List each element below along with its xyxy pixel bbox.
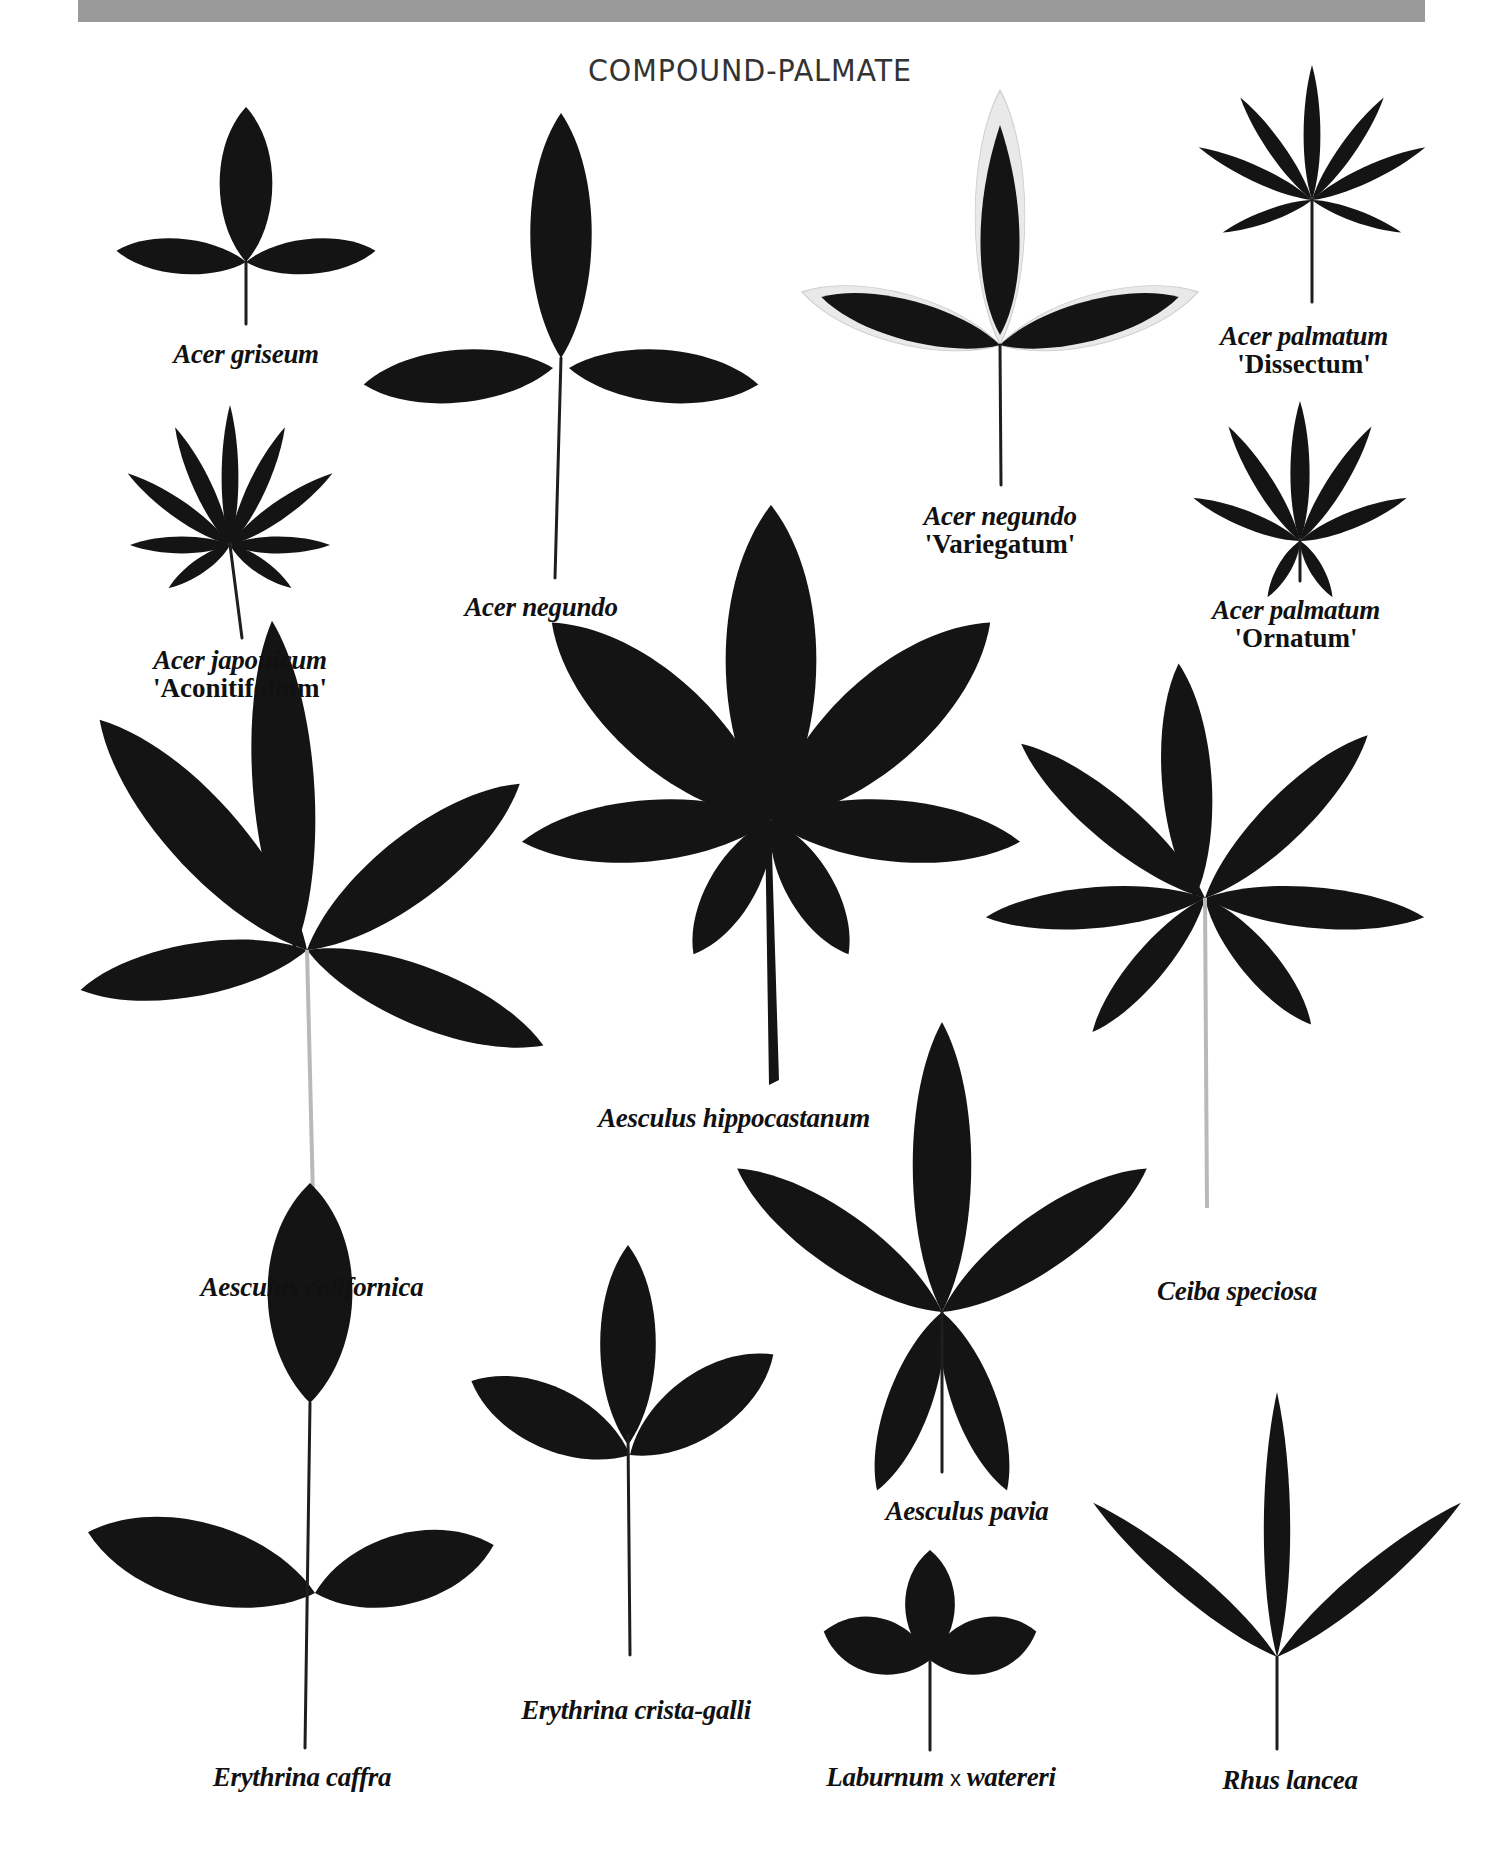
label-erythrina-crista-galli: Erythrina crista-galli — [521, 1696, 751, 1724]
leaf-acer-palmatum-ornatum-icon — [1190, 401, 1410, 601]
species-name: Laburnumxwatereri — [826, 1763, 1055, 1791]
cultivar-name: 'Ornatum' — [1212, 624, 1380, 652]
leaf-acer-griseum-icon — [115, 107, 377, 324]
leaf-rhus-lancea-icon — [1084, 1392, 1469, 1749]
label-erythrina-caffra: Erythrina caffra — [213, 1763, 391, 1791]
leaf-erythrina-crista-galli-icon — [458, 1245, 791, 1655]
label-rhus-lancea: Rhus lancea — [1222, 1766, 1357, 1794]
species-name: Acer palmatum — [1220, 322, 1388, 350]
leaf-ceiba-speciosa-icon — [984, 662, 1426, 1208]
species-name: Acer griseum — [173, 340, 319, 368]
label-ceiba-speciosa: Ceiba speciosa — [1157, 1277, 1317, 1305]
leaf-illustrations — [0, 0, 1500, 1873]
label-aesculus-pavia: Aesculus pavia — [885, 1497, 1048, 1525]
cultivar-name: 'Aconitifolium' — [153, 674, 327, 702]
species-name: Acer negundo — [923, 502, 1076, 530]
leaf-acer-negundo-variegatum-icon — [796, 90, 1205, 485]
leaf-erythrina-caffra-icon — [78, 1183, 503, 1748]
species-name: Rhus lancea — [1222, 1766, 1357, 1794]
hybrid-sign: x — [944, 1766, 967, 1791]
cultivar-name: 'Dissectum' — [1220, 350, 1388, 378]
label-acer-negundo-variegatum: Acer negundo 'Variegatum' — [923, 502, 1076, 559]
species-name: Erythrina caffra — [213, 1763, 391, 1791]
label-acer-negundo: Acer negundo — [464, 593, 617, 621]
species-name: Erythrina crista-galli — [521, 1696, 751, 1724]
species-name: Acer japonicum — [153, 646, 327, 674]
label-acer-japonicum-aconitifolium: Acer japonicum 'Aconitifolium' — [153, 646, 327, 703]
species-name: Aesculus hippocastanum — [598, 1104, 870, 1132]
label-aesculus-californica: Aesculus californica — [201, 1273, 424, 1301]
label-aesculus-hippocastanum: Aesculus hippocastanum — [598, 1104, 870, 1132]
species-name: Acer negundo — [464, 593, 617, 621]
leaf-laburnum-watereri-icon — [817, 1550, 1044, 1750]
species-name: Aesculus pavia — [885, 1497, 1048, 1525]
species-name: Ceiba speciosa — [1157, 1277, 1317, 1305]
leaf-aesculus-pavia-icon — [721, 1022, 1162, 1498]
cultivar-name: 'Variegatum' — [923, 530, 1076, 558]
leaf-acer-negundo-icon — [361, 113, 760, 578]
species-name: Acer palmatum — [1212, 596, 1380, 624]
label-acer-palmatum-dissectum: Acer palmatum 'Dissectum' — [1220, 322, 1388, 379]
genus-name: Laburnum — [826, 1762, 944, 1792]
leaf-acer-palmatum-dissectum-icon — [1195, 65, 1428, 302]
label-acer-palmatum-ornatum: Acer palmatum 'Ornatum' — [1212, 596, 1380, 653]
label-acer-griseum: Acer griseum — [173, 340, 319, 368]
species-name: Aesculus californica — [201, 1273, 424, 1301]
leaf-aesculus-californica-icon — [73, 619, 554, 1280]
leaf-acer-japonicum-aconitifolium-icon — [122, 405, 337, 638]
epithet-name: watereri — [967, 1762, 1056, 1792]
label-laburnum-watereri: Laburnumxwatereri — [826, 1763, 1055, 1791]
